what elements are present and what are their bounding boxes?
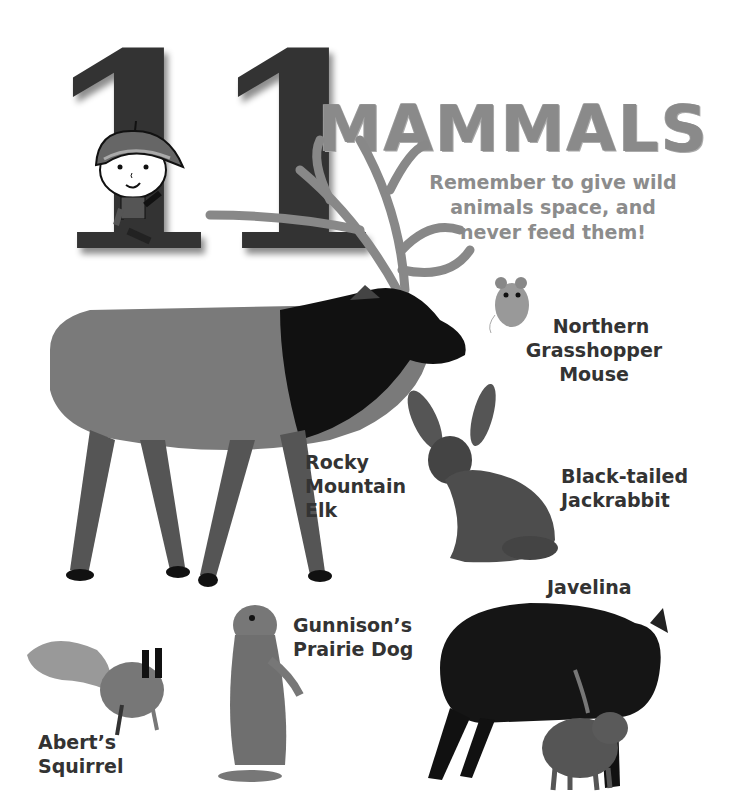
javelina-icon	[420, 598, 680, 793]
label-line: Northern	[519, 314, 669, 338]
label-black-tailed-jackrabbit: Black-tailed Jackrabbit	[561, 464, 688, 512]
label-line: Elk	[305, 498, 406, 522]
label-line: Prairie Dog	[293, 637, 413, 661]
label-aberts-squirrel: Abert’s Squirrel	[38, 730, 123, 778]
label-line: Rocky	[305, 450, 406, 474]
label-gunnisons-prairie-dog: Gunnison’s Prairie Dog	[293, 613, 413, 661]
label-rocky-mountain-elk: Rocky Mountain Elk	[305, 450, 406, 522]
label-line: Grasshopper	[519, 338, 669, 362]
label-line: Gunnison’s	[293, 613, 413, 637]
label-line: Mouse	[519, 362, 669, 386]
label-javelina: Javelina	[547, 575, 632, 599]
label-line: Javelina	[547, 575, 632, 599]
label-line: Squirrel	[38, 754, 123, 778]
jackrabbit-icon	[405, 390, 575, 570]
aberts-squirrel-icon	[22, 630, 162, 740]
label-line: Abert’s	[38, 730, 123, 754]
label-northern-grasshopper-mouse: Northern Grasshopper Mouse	[519, 314, 669, 386]
label-line: Black-tailed	[561, 464, 688, 488]
label-line: Mountain	[305, 474, 406, 498]
label-line: Jackrabbit	[561, 488, 688, 512]
